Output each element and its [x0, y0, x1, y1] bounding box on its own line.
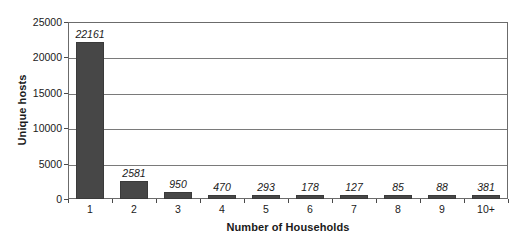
y-axis-tick-label: 15000	[18, 88, 62, 98]
x-axis-tick-label: 6	[288, 203, 332, 216]
x-axis-tick-label: 8	[376, 203, 420, 216]
bar[interactable]	[472, 195, 500, 199]
bar-group: 178	[288, 22, 332, 199]
bar[interactable]	[120, 181, 148, 199]
bar-value-label: 381	[477, 182, 495, 193]
bar-group: 381	[464, 22, 508, 199]
x-axis-tick-label: 3	[156, 203, 200, 216]
bar-value-label: 88	[436, 182, 448, 193]
x-axis-tick-label: 2	[112, 203, 156, 216]
y-axis-tick-labels: 0500010000150002000025000	[18, 0, 62, 241]
bar[interactable]	[296, 195, 324, 199]
y-axis-tick-label: 5000	[18, 159, 62, 169]
bar-value-label: 178	[301, 182, 319, 193]
x-axis-tick-label: 5	[244, 203, 288, 216]
bar-group: 85	[376, 22, 420, 199]
bar-group: 470	[200, 22, 244, 199]
x-axis-tick-label: 10+	[464, 203, 508, 216]
x-axis-tick-label: 7	[332, 203, 376, 216]
y-axis-tick-label: 20000	[18, 52, 62, 62]
bar[interactable]	[428, 195, 456, 199]
bar[interactable]	[340, 195, 368, 199]
y-axis-tick-label: 25000	[18, 17, 62, 27]
bar-group: 88	[420, 22, 464, 199]
bar-value-label: 2581	[122, 168, 145, 179]
x-axis-tick-mark	[508, 199, 509, 203]
bar-value-label: 293	[257, 182, 275, 193]
y-axis-tick-label: 0	[18, 194, 62, 204]
x-axis-title: Number of Households	[68, 221, 508, 233]
bar-group: 2581	[112, 22, 156, 199]
bars-layer: 2216125819504702931781278588381	[68, 22, 508, 199]
bar-value-label: 950	[169, 179, 187, 190]
x-axis-tick-label: 9	[420, 203, 464, 216]
bar-chart: Unique hosts 0500010000150002000025000 2…	[0, 0, 527, 241]
bar-value-label: 470	[213, 182, 231, 193]
x-axis-tick-label: 4	[200, 203, 244, 216]
x-axis-tick-labels: 12345678910+	[68, 203, 508, 219]
bar[interactable]	[208, 195, 236, 199]
bar[interactable]	[384, 195, 412, 199]
bar-value-label: 22161	[75, 29, 104, 40]
bar[interactable]	[252, 195, 280, 199]
bar-group: 22161	[68, 22, 112, 199]
bar-value-label: 85	[392, 182, 404, 193]
bar[interactable]	[76, 42, 104, 199]
x-axis-tick-label: 1	[68, 203, 112, 216]
bar-value-label: 127	[345, 182, 363, 193]
bar[interactable]	[164, 192, 192, 199]
bar-group: 293	[244, 22, 288, 199]
y-axis-tick-label: 10000	[18, 123, 62, 133]
bar-group: 950	[156, 22, 200, 199]
bar-group: 127	[332, 22, 376, 199]
